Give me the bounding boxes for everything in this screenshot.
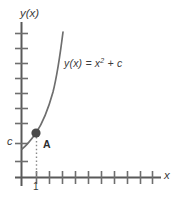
parabola-curve (22, 32, 63, 149)
y-intercept-label: c (7, 136, 13, 147)
point-a-label: A (43, 139, 51, 150)
y-axis-label: y(x) (20, 8, 39, 20)
plot-canvas (0, 0, 179, 200)
equation-prefix: y(x) = x (64, 57, 100, 69)
x-axis-label: x (164, 170, 170, 182)
equation-label: y(x) = x2 + c (64, 58, 122, 69)
parabola-figure: y(x) x y(x) = x2 + c c A 1 (0, 0, 179, 200)
point-a-marker (31, 128, 40, 137)
x-tick-label-1: 1 (33, 182, 39, 192)
equation-suffix: + c (104, 57, 122, 69)
